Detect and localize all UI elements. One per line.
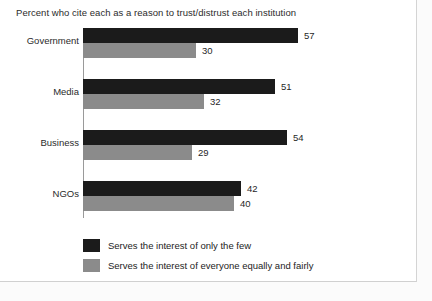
bar-value-media-few: 51 bbox=[281, 79, 292, 94]
category-label-media: Media bbox=[0, 86, 79, 97]
legend-swatch-few bbox=[83, 239, 100, 252]
bar-value-ngos-equal: 40 bbox=[240, 196, 251, 211]
category-label-business: Business bbox=[0, 137, 79, 148]
bar-value-ngos-few: 42 bbox=[247, 181, 258, 196]
bar-government-equal bbox=[83, 43, 196, 58]
bar-group-media: Media 51 32 bbox=[83, 79, 413, 109]
category-label-government: Government bbox=[0, 35, 79, 46]
bar-value-business-equal: 29 bbox=[198, 145, 209, 160]
bar-business-equal bbox=[83, 145, 192, 160]
bar-media-few bbox=[83, 79, 275, 94]
legend-label-few: Serves the interest of only the few bbox=[108, 240, 251, 251]
bar-government-few bbox=[83, 28, 298, 43]
legend-item-few: Serves the interest of only the few bbox=[83, 237, 313, 254]
bar-group-ngos: NGOs 42 40 bbox=[83, 181, 413, 211]
legend-item-equal: Serves the interest of everyone equally … bbox=[83, 257, 313, 274]
chart-figure: Percent who cite each as a reason to tru… bbox=[0, 0, 432, 301]
bar-media-equal bbox=[83, 94, 204, 109]
category-label-ngos: NGOs bbox=[0, 188, 79, 199]
chart-title: Percent who cite each as a reason to tru… bbox=[16, 7, 296, 18]
bar-value-government-equal: 30 bbox=[202, 43, 213, 58]
bar-value-business-few: 54 bbox=[293, 130, 304, 145]
bar-value-media-equal: 32 bbox=[210, 94, 221, 109]
legend-swatch-equal bbox=[83, 259, 100, 272]
bar-ngos-equal bbox=[83, 196, 234, 211]
bar-ngos-few bbox=[83, 181, 241, 196]
legend-label-equal: Serves the interest of everyone equally … bbox=[108, 260, 313, 271]
bar-group-business: Business 54 29 bbox=[83, 130, 413, 160]
plot-area: Government 57 30 Media 51 32 Business 54… bbox=[83, 28, 413, 218]
chart-legend: Serves the interest of only the few Serv… bbox=[83, 237, 313, 277]
bar-value-government-few: 57 bbox=[304, 28, 315, 43]
bar-business-few bbox=[83, 130, 287, 145]
bar-group-government: Government 57 30 bbox=[83, 28, 413, 58]
